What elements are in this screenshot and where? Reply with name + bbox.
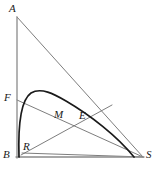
vertex-label-m: M [54, 109, 63, 120]
vertex-label-b: B [3, 149, 10, 160]
vertex-label-s: S [146, 149, 152, 160]
vertex-label-e: E [79, 110, 86, 121]
segment-r-through-m [21, 105, 112, 155]
vertex-label-f: F [4, 92, 11, 103]
vertex-label-r: R [23, 141, 30, 152]
vertex-label-a: A [9, 3, 16, 14]
geometry-figure: A F B R M E S [0, 0, 160, 177]
segment-as [17, 17, 143, 157]
